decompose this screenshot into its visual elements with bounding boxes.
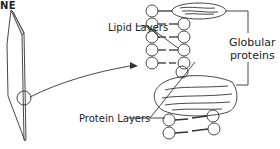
globular-leader-top — [226, 11, 248, 33]
globular-leader-bottom — [236, 62, 248, 85]
globular-line2: proteins — [229, 49, 276, 62]
protein-layers-label: Protein Layers — [79, 113, 150, 124]
globular-protein-top — [172, 3, 226, 19]
globular-protein-large — [154, 76, 237, 116]
membrane-slab — [7, 10, 26, 141]
zoom-arrow — [30, 66, 130, 97]
lipid-layers-label: Lipid Layers — [108, 22, 168, 33]
globular-line1: Globular — [229, 36, 276, 49]
globular-proteins-label: Globular proteins — [229, 36, 276, 62]
arrow-head-icon — [130, 62, 138, 69]
